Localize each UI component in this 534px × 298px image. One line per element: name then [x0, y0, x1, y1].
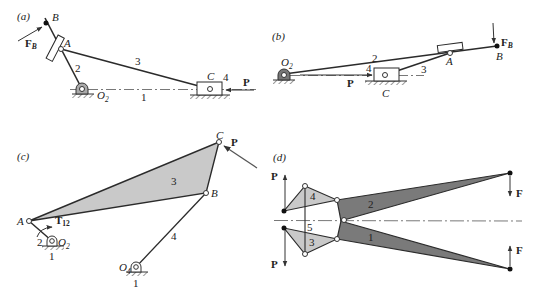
- joint-a: [27, 219, 32, 224]
- label-o4: O4: [119, 261, 131, 276]
- label-force-p-bottom: P: [271, 258, 278, 270]
- panel-c: (c) C B A O2 O4 3 4 2 1 1 P: [16, 129, 257, 289]
- label-force-p-top: P: [271, 170, 278, 182]
- force-fb-arrow: [493, 23, 494, 43]
- label-a: A: [445, 55, 453, 67]
- label-link-2: 2: [372, 52, 378, 64]
- point-b: [495, 44, 500, 49]
- joint-b: [204, 191, 209, 196]
- label-c: C: [216, 129, 224, 141]
- label-b: B: [211, 187, 218, 199]
- ground-hatch-o2: [273, 80, 295, 84]
- label-link-1: 1: [141, 91, 147, 103]
- link-2-jaw: [337, 173, 510, 221]
- label-link-2: 2: [368, 198, 374, 210]
- label-force-p: P: [231, 136, 238, 148]
- label-force-p: P: [347, 77, 354, 89]
- label-link-1-o4: 1: [133, 277, 139, 289]
- joint-c: [208, 87, 213, 92]
- ground-hatch-slider: [365, 81, 407, 85]
- panel-a-label: (a): [17, 10, 30, 23]
- label-link-3: 3: [171, 175, 177, 187]
- label-a: A: [16, 215, 24, 227]
- label-link-1: 1: [368, 231, 374, 243]
- label-c: C: [382, 87, 390, 99]
- mechanism-figure: (a) B A C O2 1 2 3 4: [0, 0, 534, 298]
- force-p-arrow: [224, 146, 257, 168]
- label-link-4: 4: [310, 190, 316, 202]
- label-link-1-o2: 1: [49, 250, 55, 262]
- label-link-5: 5: [307, 221, 313, 233]
- panel-c-label: (c): [17, 150, 30, 163]
- label-link-2: 2: [75, 62, 81, 74]
- panel-a: (a) B A C O2 1 2 3 4: [17, 10, 256, 104]
- label-link-4: 4: [366, 62, 372, 74]
- label-o2: O2: [97, 89, 109, 104]
- label-c: C: [207, 70, 215, 82]
- ground-hatch-slider: [190, 95, 230, 99]
- point-b: [44, 21, 49, 26]
- joint-jaw-pivot: [342, 218, 347, 223]
- label-force-fb: FB: [501, 36, 513, 50]
- panel-d: (d) P P F F 4 3 5 2: [271, 151, 523, 272]
- label-force-fb: FB: [25, 37, 37, 51]
- link-1-jaw: [337, 221, 510, 269]
- joint-c: [383, 73, 388, 78]
- label-link-3: 3: [421, 63, 427, 75]
- panel-d-label: (d): [273, 151, 286, 164]
- label-link-4: 4: [171, 230, 177, 242]
- label-force-f-top: F: [516, 187, 523, 199]
- label-b: B: [496, 50, 503, 62]
- label-link-3: 3: [309, 236, 315, 248]
- label-link-4: 4: [223, 71, 229, 83]
- panel-b-label: (b): [272, 30, 285, 43]
- label-force-p: P: [243, 76, 250, 88]
- panel-b: (b) B A C O2 2 3 4 P FB: [272, 23, 513, 99]
- joint-a: [59, 47, 64, 52]
- label-force-f-bottom: F: [516, 244, 523, 256]
- ground-hatch-o2: [72, 94, 94, 98]
- label-link-2: 2: [37, 236, 43, 248]
- label-link-3: 3: [135, 55, 141, 67]
- label-a: A: [63, 37, 71, 49]
- label-b: B: [52, 11, 59, 23]
